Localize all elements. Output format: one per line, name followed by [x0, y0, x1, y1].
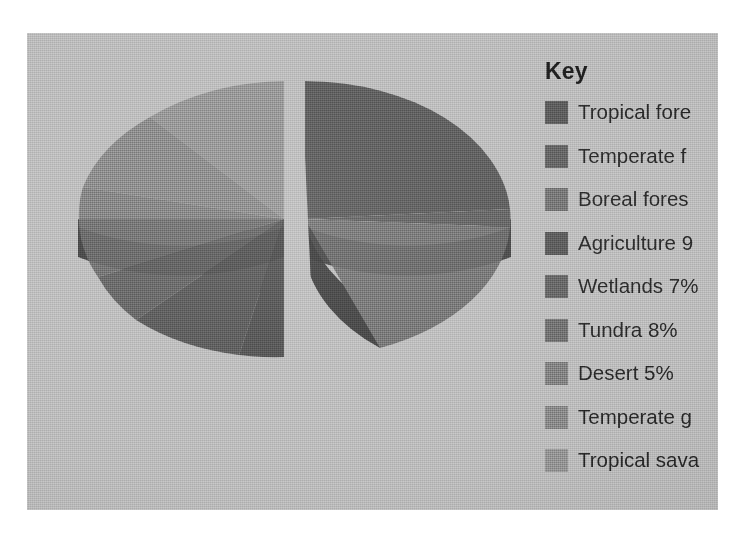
legend-label-tundra: Tundra 8%: [578, 313, 678, 347]
legend-swatch-agriculture: [545, 232, 568, 255]
pie-chart-graphic: [72, 51, 527, 471]
legend-swatch-desert: [545, 362, 568, 385]
legend-item-agriculture[interactable]: Agriculture 9: [540, 224, 718, 268]
legend-label-tropical-forest: Tropical fore: [578, 95, 691, 129]
legend-title: Key: [545, 58, 588, 85]
legend-item-temperate-grassland[interactable]: Temperate g: [540, 398, 718, 442]
legend-label-temperate-grassland: Temperate g: [578, 400, 692, 434]
legend-item-temperate-forest[interactable]: Temperate f: [540, 137, 718, 181]
photographed-page: Key Tropical fore Temperate f Boreal for…: [27, 33, 718, 510]
legend-item-tropical-savanna[interactable]: Tropical sava: [540, 441, 718, 485]
pie-chart-plot-area: [27, 33, 547, 510]
legend-swatch-tundra: [545, 319, 568, 342]
slice-tropical-forest[interactable]: [305, 81, 510, 219]
legend-label-temperate-forest: Temperate f: [578, 139, 686, 173]
legend-swatch-tropical-savanna: [545, 449, 568, 472]
pie-group-right: [305, 81, 511, 348]
legend-swatch-temperate-forest: [545, 145, 568, 168]
legend-list: Tropical fore Temperate f Boreal fores A…: [540, 93, 718, 485]
legend-item-tundra[interactable]: Tundra 8%: [540, 311, 718, 355]
pie-group-left: [78, 81, 284, 357]
legend-label-tropical-savanna: Tropical sava: [578, 443, 699, 477]
screenshot-root: { "page": { "background_color": "#b9b9b9…: [0, 0, 750, 535]
legend-label-desert: Desert 5%: [578, 356, 674, 390]
legend-swatch-wetlands: [545, 275, 568, 298]
legend-item-boreal-forest[interactable]: Boreal fores: [540, 180, 718, 224]
legend-label-boreal-forest: Boreal fores: [578, 182, 689, 216]
legend-label-wetlands: Wetlands 7%: [578, 269, 698, 303]
legend-swatch-boreal-forest: [545, 188, 568, 211]
legend-swatch-tropical-forest: [545, 101, 568, 124]
legend-item-desert[interactable]: Desert 5%: [540, 354, 718, 398]
pie-chart: [72, 51, 527, 471]
legend-item-wetlands[interactable]: Wetlands 7%: [540, 267, 718, 311]
legend-label-agriculture: Agriculture 9: [578, 226, 693, 260]
legend-swatch-temperate-grassland: [545, 406, 568, 429]
legend: Key Tropical fore Temperate f Boreal for…: [540, 55, 718, 505]
legend-item-tropical-forest[interactable]: Tropical fore: [540, 93, 718, 137]
